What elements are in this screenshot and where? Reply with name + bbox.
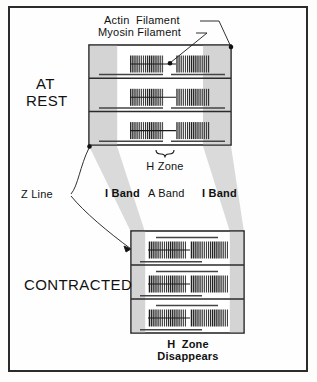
contracted-sarcomere-block [131,231,244,333]
label-i-band-right: I Band [202,187,237,199]
h-zone-brace [156,150,174,158]
label-i-band-left: I Band [105,187,140,199]
label-h-zone-disappears-line1: H Zone [143,338,233,350]
label-at-rest-line1: AT [36,76,55,93]
label-at-rest-line2: REST [26,93,68,110]
label-h-zone-disappears-line2: Disappears [143,350,233,362]
label-myosin-filament: Myosin Filament [98,26,181,38]
label-contracted: CONTRACTED [24,277,132,294]
rest-sarcomere-block [89,45,231,145]
label-z-line: Z Line [21,188,53,200]
label-h-zone: H Zone [143,160,187,172]
sarcomere-diagram: Actin Filament Myosin Filament AT REST H… [0,0,317,382]
label-a-band: A Band [148,187,185,199]
label-actin-filament: Actin Filament [104,14,180,26]
